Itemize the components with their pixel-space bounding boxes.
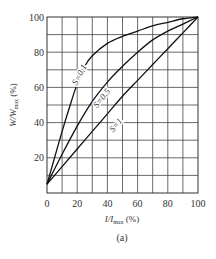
x-tick-label: 40	[102, 198, 112, 209]
y-axis-label: W/Wmax (%)	[8, 83, 19, 127]
x-tick-label: 20	[72, 198, 82, 209]
curve-label: S=0.1	[70, 63, 89, 87]
y-tick-label: 40	[34, 117, 44, 128]
figure-caption: (a)	[116, 232, 127, 244]
y-tick-label: 100	[29, 12, 44, 23]
y-tick-label: 60	[34, 82, 44, 93]
curve-label: S=0.5	[91, 86, 113, 110]
y-tick-labels: 20406080100	[29, 12, 44, 164]
y-tick-label: 20	[34, 152, 44, 163]
x-tick-label: 100	[191, 198, 206, 209]
x-tick-label: 0	[45, 198, 50, 209]
chart: 020406080100 20406080100 S=0.1S=0.1S=0.5…	[0, 0, 216, 259]
x-tick-label: 60	[133, 198, 143, 209]
x-axis-label: I/Imax (%)	[104, 214, 140, 225]
curve-label: S=1	[107, 116, 124, 134]
x-tick-labels: 020406080100	[45, 198, 206, 209]
x-tick-label: 80	[163, 198, 173, 209]
y-tick-label: 80	[34, 47, 44, 58]
